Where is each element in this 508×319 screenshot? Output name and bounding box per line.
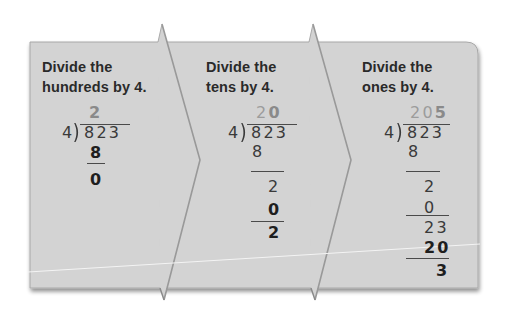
quotient: 205 [410, 104, 448, 122]
step-title: Divide the hundreds by 4. [42, 57, 147, 97]
title-line: Divide the [206, 57, 276, 77]
work-line: 2 [424, 178, 436, 196]
work-line: 8 [252, 143, 264, 161]
long-division-diagram: Divide the hundreds by 4. 2 4 ) 823 8 0 … [0, 0, 508, 319]
divisor: 4 [228, 124, 240, 142]
title-line: Divide the [362, 57, 434, 77]
title-line: hundreds by 4. [42, 77, 147, 97]
work-line: 23 [424, 219, 449, 237]
subtraction-rule [251, 171, 284, 172]
dividend: 823 [407, 124, 444, 142]
dividend: 823 [84, 124, 121, 142]
work-line: 8 [408, 143, 420, 161]
subtraction-rule [87, 163, 105, 164]
division-bracket: ) [73, 121, 80, 143]
quotient: 20 [256, 104, 282, 122]
subtraction-rule [406, 215, 449, 216]
subtraction-rule [251, 221, 284, 222]
work-line: 20 [424, 239, 451, 257]
work-line: 2 [268, 178, 280, 196]
work-line: 2 [268, 224, 281, 242]
work-line: 3 [436, 262, 449, 280]
subtraction-rule [406, 258, 449, 259]
title-line: Divide the [42, 57, 147, 77]
subtraction-rule [406, 171, 440, 172]
work-line: 0 [90, 171, 103, 189]
title-line: ones by 4. [362, 77, 434, 97]
dividend: 823 [251, 124, 288, 142]
division-bracket: ) [396, 121, 403, 143]
divisor: 4 [384, 124, 396, 142]
step-title: Divide the tens by 4. [206, 57, 276, 97]
work-line: 0 [268, 201, 281, 219]
division-bracket: ) [240, 121, 247, 143]
step-title: Divide the ones by 4. [362, 57, 434, 97]
title-line: tens by 4. [206, 77, 276, 97]
quotient: 2 [89, 104, 102, 122]
work-line: 8 [90, 144, 103, 162]
